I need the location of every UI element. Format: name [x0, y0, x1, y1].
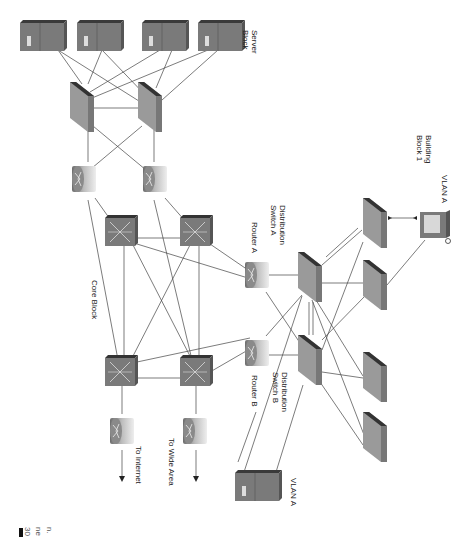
workstation-icon: [420, 210, 451, 244]
router-b-icon: [245, 340, 269, 366]
multilayer-switch-icon: [180, 215, 213, 246]
router-b-label: Router B: [250, 375, 259, 407]
router-a-icon: [245, 262, 269, 288]
server-icon: [198, 20, 245, 51]
text-fragment: n.: [45, 527, 54, 534]
server-icon: [20, 20, 67, 51]
distribution-switch-b-label: DistributionSwitch B: [271, 372, 289, 412]
internet-router-icon: [110, 418, 134, 444]
wan-router-icon: [183, 418, 207, 444]
router-icon: [72, 166, 96, 192]
server-block-label: ServerBlock: [241, 30, 259, 54]
to-wide-area-label: To Wide Area: [167, 438, 176, 486]
multilayer-switch-icon: [180, 355, 213, 386]
router-a-label: Router A: [250, 222, 259, 254]
building-block-label: BuildingBlock 1: [415, 135, 433, 163]
access-switch-icon: [363, 412, 387, 462]
access-switch-icon: [363, 352, 387, 402]
distribution-switch-a-icon: [298, 252, 322, 302]
access-switch-icon: [363, 260, 387, 310]
server-icon: [77, 20, 124, 51]
distribution-switch-a-label: DistributionSwitch A: [269, 205, 287, 245]
vlan-a-server-icon: [235, 470, 282, 501]
switch-icon: [138, 82, 162, 132]
page-number-fragment: 30: [23, 527, 32, 536]
multilayer-switch-icon: [105, 215, 138, 246]
text-fragment: ne: [34, 527, 43, 536]
distribution-switch-b-icon: [298, 335, 322, 385]
vlan-a-server-label: VLAN A: [289, 478, 298, 507]
core-switches: [105, 215, 213, 386]
server-icon: [142, 20, 189, 51]
to-internet-label: To Internet: [134, 446, 143, 485]
router-icon: [143, 166, 167, 192]
access-switch-icon: [363, 198, 387, 248]
switch-icon: [70, 82, 94, 132]
server-block-servers: [20, 20, 245, 51]
core-block-label: Core Block: [90, 280, 99, 320]
vlan-a-pc-label: VLAN A: [440, 175, 449, 204]
multilayer-switch-icon: [105, 355, 138, 386]
network-diagram: ServerBlock Core Block Router A Router B…: [0, 0, 471, 541]
